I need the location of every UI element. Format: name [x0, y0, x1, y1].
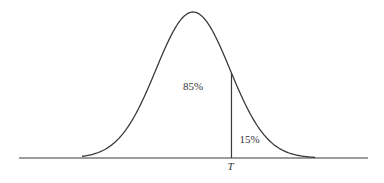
region-label-below-threshold: 85% [183, 80, 203, 92]
region-label-above-threshold: 15% [239, 133, 259, 145]
normal-distribution-chart: 85% 15% T [0, 0, 384, 183]
threshold-tick-label: T [227, 160, 234, 172]
